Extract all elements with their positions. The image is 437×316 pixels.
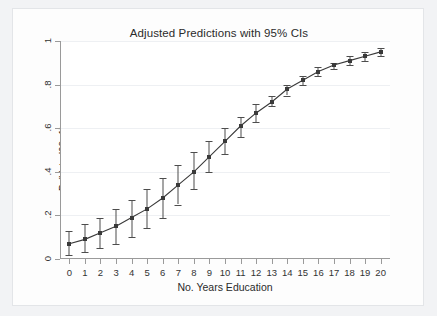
error-bar-cap xyxy=(66,231,73,232)
gridline xyxy=(61,215,390,216)
x-tick xyxy=(209,259,210,264)
x-tick-label: 1 xyxy=(82,267,87,278)
error-bar-cap xyxy=(66,255,73,256)
x-tick-label: 16 xyxy=(313,267,324,278)
x-tick xyxy=(194,259,195,264)
x-tick xyxy=(318,259,319,264)
x-tick xyxy=(365,259,366,264)
x-tick xyxy=(256,259,257,264)
data-point-marker xyxy=(301,78,305,82)
data-point-marker xyxy=(379,50,383,54)
error-bar-cap xyxy=(190,189,197,190)
error-bar-cap xyxy=(81,252,88,253)
x-tick-label: 12 xyxy=(251,267,262,278)
x-tick xyxy=(381,259,382,264)
error-bar-cap xyxy=(346,56,353,57)
gridline xyxy=(61,41,390,42)
x-tick-label: 5 xyxy=(145,267,150,278)
plot-area: 0.2.4.6.81 01234567891011121314151617181… xyxy=(60,41,390,259)
data-point-marker xyxy=(130,216,134,220)
x-tick-label: 11 xyxy=(236,267,246,278)
data-point-marker xyxy=(67,242,71,246)
error-bar-cap xyxy=(128,200,135,201)
error-bar-cap xyxy=(175,205,182,206)
x-tick xyxy=(69,259,70,264)
data-point-marker xyxy=(254,111,258,115)
y-tick-label: .4 xyxy=(42,164,53,178)
x-tick xyxy=(116,259,117,264)
y-tick xyxy=(55,172,60,173)
x-tick xyxy=(163,259,164,264)
gridline xyxy=(61,85,390,86)
data-point-marker xyxy=(176,183,180,187)
error-bar-cap xyxy=(222,128,229,129)
error-bar-cap xyxy=(81,224,88,225)
data-point-marker xyxy=(316,70,320,74)
x-tick xyxy=(334,259,335,264)
figure-background: Adjusted Predictions with 95% CIs Pr(Vot… xyxy=(0,0,437,316)
data-point-marker xyxy=(98,231,102,235)
x-tick-label: 15 xyxy=(298,267,309,278)
x-tick xyxy=(272,259,273,264)
error-bar-cap xyxy=(97,248,104,249)
x-tick-label: 13 xyxy=(266,267,277,278)
error-bar-cap xyxy=(206,172,213,173)
error-bar-cap xyxy=(128,237,135,238)
y-tick xyxy=(55,41,60,42)
y-tick-label: .6 xyxy=(42,121,53,135)
error-bar-cap xyxy=(253,104,260,105)
error-bar-cap xyxy=(144,228,151,229)
error-bar-cap xyxy=(237,117,244,118)
error-bar-cap xyxy=(175,165,182,166)
x-tick-label: 4 xyxy=(129,267,134,278)
error-bar-cap xyxy=(159,218,166,219)
x-tick-label: 7 xyxy=(176,267,181,278)
data-point-marker xyxy=(332,63,336,67)
error-bar-cap xyxy=(113,244,120,245)
x-tick xyxy=(225,259,226,264)
y-tick-label: 0 xyxy=(42,252,53,266)
error-bar-cap xyxy=(144,189,151,190)
data-point-marker xyxy=(239,124,243,128)
x-tick-label: 20 xyxy=(375,267,386,278)
data-point-marker xyxy=(192,170,196,174)
error-bar-cap xyxy=(284,85,291,86)
x-tick-label: 3 xyxy=(113,267,118,278)
error-bar-cap xyxy=(268,96,275,97)
gridline xyxy=(61,172,390,173)
error-bar-cap xyxy=(284,96,291,97)
x-tick xyxy=(287,259,288,264)
data-point-marker xyxy=(348,59,352,63)
x-tick-label: 10 xyxy=(220,267,231,278)
data-point-marker xyxy=(207,155,211,159)
data-point-marker xyxy=(161,196,165,200)
error-bar-cap xyxy=(190,152,197,153)
data-point-marker xyxy=(363,54,367,58)
error-bar-cap xyxy=(268,106,275,107)
x-tick-label: 6 xyxy=(160,267,165,278)
x-tick-label: 9 xyxy=(207,267,212,278)
error-bar-cap xyxy=(362,61,369,62)
x-tick-label: 0 xyxy=(67,267,72,278)
error-bar-cap xyxy=(362,52,369,53)
data-point-marker xyxy=(285,87,289,91)
x-tick xyxy=(100,259,101,264)
x-tick xyxy=(178,259,179,264)
data-point-marker xyxy=(114,224,118,228)
x-tick xyxy=(132,259,133,264)
x-tick xyxy=(303,259,304,264)
y-tick-label: .2 xyxy=(42,208,53,222)
x-tick xyxy=(350,259,351,264)
x-tick-label: 14 xyxy=(282,267,293,278)
error-bar-cap xyxy=(315,67,322,68)
error-bar-cap xyxy=(315,76,322,77)
error-bar-cap xyxy=(346,65,353,66)
data-point-marker xyxy=(270,100,274,104)
error-bar-cap xyxy=(97,218,104,219)
error-bar-cap xyxy=(377,56,384,57)
data-point-marker xyxy=(223,139,227,143)
x-tick-label: 17 xyxy=(329,267,340,278)
x-tick xyxy=(85,259,86,264)
error-bar-cap xyxy=(222,154,229,155)
x-axis-label: No. Years Education xyxy=(60,281,390,293)
